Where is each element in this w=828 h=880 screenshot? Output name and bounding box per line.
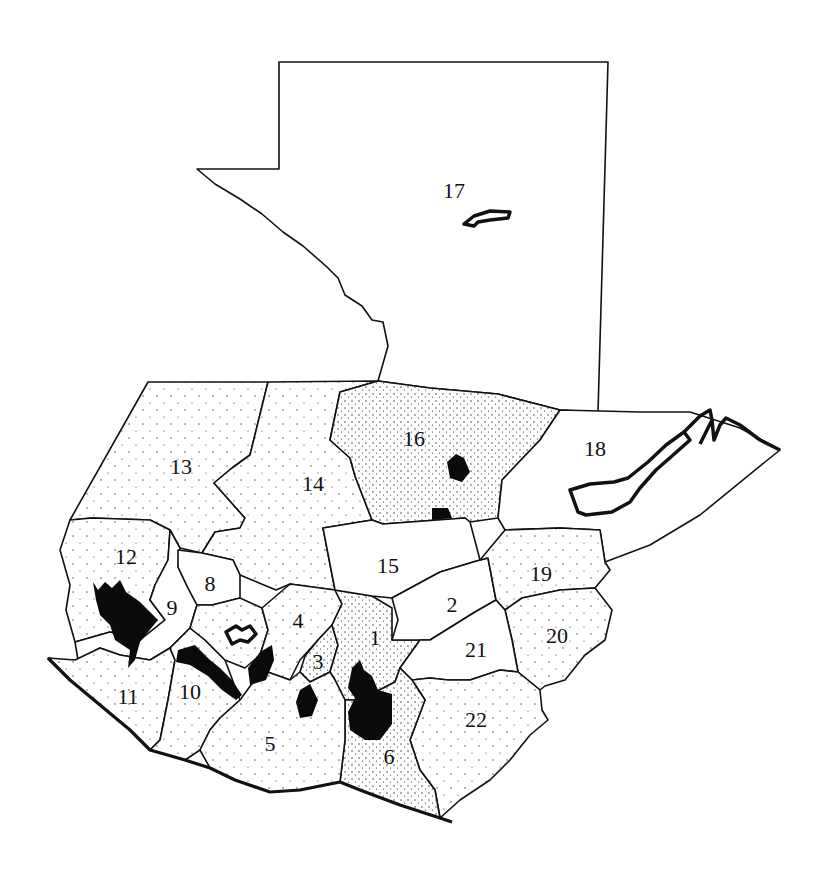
department-label-11: 11 [117,686,138,708]
department-label-2: 2 [447,594,458,616]
department-label-6: 6 [384,746,395,768]
department-label-10: 10 [179,681,201,703]
department-label-13: 13 [170,456,192,478]
department-label-1: 1 [370,627,381,649]
department-label-22: 22 [465,709,487,731]
department-label-15: 15 [377,555,399,577]
department-label-5: 5 [265,733,276,755]
department-label-16: 16 [403,428,425,450]
department-label-3: 3 [313,651,324,673]
department-label-12: 12 [115,546,137,568]
department-label-4: 4 [293,610,304,632]
department-label-8: 8 [205,573,216,595]
department-label-17: 17 [443,180,465,202]
department-label-14: 14 [302,473,324,495]
department-label-19: 19 [530,563,552,585]
department-label-20: 20 [546,625,568,647]
department-label-21: 21 [465,639,487,661]
department-label-9: 9 [167,597,178,619]
department-label-18: 18 [584,438,606,460]
